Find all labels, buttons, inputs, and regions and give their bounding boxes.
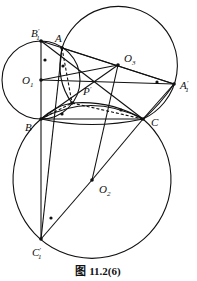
label-O2: O2 [99,183,111,198]
label-A: A [54,32,62,44]
label-C: C [151,116,159,128]
line-O1-A1p [41,80,174,84]
angle-marker-1 [43,58,46,61]
label-O1: O1 [22,74,33,89]
angle-marker-6 [49,216,52,219]
angle-marker-4 [60,112,63,115]
point-O3 [116,63,120,67]
angle-marker-3 [155,80,158,83]
point-O1 [39,78,43,82]
line-O2-C [92,119,143,180]
point-A1p [172,82,176,86]
angle-marker-2 [61,64,64,67]
label-O3: O3 [124,52,136,67]
point-C1p [39,237,43,241]
label-B: B [25,121,32,133]
figure-caption: 图 11.2(6) [75,265,121,278]
line-O2-C1p [41,180,92,239]
dashed-B-P [41,103,72,119]
label-P: P′ [82,85,92,97]
circle-O2 [13,119,171,258]
label-A1p: A′1 [179,79,189,94]
angle-marker-5 [119,108,122,111]
point-C [141,117,145,121]
label-B1p: B′1 [31,27,40,42]
point-A [60,46,64,50]
point-P [70,101,74,105]
arc-B-C-lower [41,119,143,125]
label-C1p: C′1 [32,246,41,261]
line-A1p-C [143,84,174,119]
point-O2 [90,178,94,182]
point-B [39,117,43,121]
geometry-figure: B′1 A O1 O3 A′1 P′ B C O2 C′1 图 11.2(6) [0,0,197,281]
